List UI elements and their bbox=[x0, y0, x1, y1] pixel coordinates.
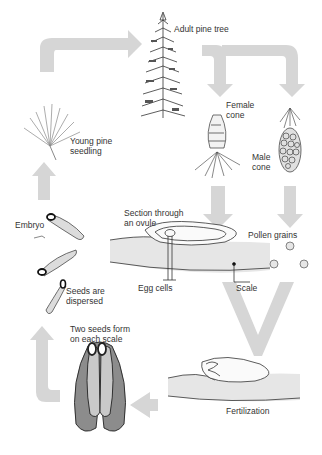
pollen-grains-illustration bbox=[270, 242, 308, 268]
ovule-section-illustration bbox=[110, 221, 270, 282]
label-seeds-dispersed: Seeds are dispersed bbox=[66, 286, 105, 306]
arrow-embryo-to-seedling bbox=[32, 162, 56, 200]
arrow-female-cone-to-ovule bbox=[203, 186, 233, 229]
fertilization-illustration bbox=[168, 357, 300, 401]
male-cone-illustration bbox=[279, 108, 301, 172]
arrow-scale-to-dispersal bbox=[30, 326, 60, 402]
arrow-seedling-to-tree bbox=[40, 30, 142, 72]
label-pollen-grains: Pollen grains bbox=[248, 230, 297, 240]
arrow-fertilization-to-seeds bbox=[130, 392, 158, 418]
label-seedling: Young pine seedling bbox=[70, 136, 112, 156]
label-embryo: Embryo bbox=[15, 220, 44, 230]
female-cone-illustration bbox=[195, 115, 240, 178]
seeds-on-scale-illustration bbox=[75, 342, 126, 431]
label-ovule-section: Section through an ovule bbox=[124, 208, 184, 228]
label-fertilization: Fertilization bbox=[226, 406, 269, 416]
arrow-male-cone-to-pollen bbox=[277, 186, 303, 228]
label-female-cone: Female cone bbox=[226, 100, 254, 120]
label-adult-pine-tree: Adult pine tree bbox=[174, 24, 229, 34]
label-scale: Scale bbox=[236, 283, 257, 293]
label-male-cone: Male cone bbox=[252, 152, 270, 172]
label-egg-cells: Egg cells bbox=[138, 283, 173, 293]
label-two-seeds: Two seeds form on each scale bbox=[70, 324, 130, 344]
arrow-tree-to-male-cone bbox=[222, 45, 305, 97]
arrow-to-fertilization bbox=[222, 282, 294, 356]
